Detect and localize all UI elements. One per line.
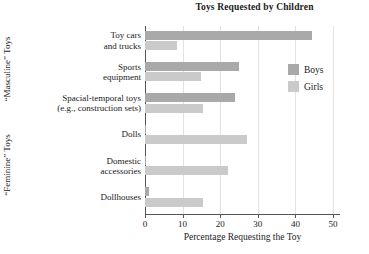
bar-girls	[145, 41, 177, 50]
category-label-line: Dollhouses	[4, 192, 141, 203]
legend-item-boys: Boys	[288, 64, 346, 75]
bar-boys	[145, 156, 146, 165]
x-tick-label-0: 0	[130, 219, 160, 229]
bar-chart: Toys Requested by Children “Masculine” T…	[0, 0, 369, 254]
category-label-line: Dolls	[4, 129, 141, 140]
category-label: Dolls	[4, 129, 144, 140]
category-label-line: and trucks	[4, 41, 141, 52]
x-tick-10	[183, 214, 184, 218]
category-label: Sportsequipment	[4, 62, 144, 83]
category-label: Domesticaccessories	[4, 156, 144, 177]
bar-girls	[145, 72, 201, 81]
legend-item-girls: Girls	[288, 81, 346, 92]
bar-boys	[145, 31, 312, 40]
legend-swatch-boys	[288, 64, 299, 75]
category-label-line: Spacial-temporal toys	[4, 93, 141, 104]
plot-area	[145, 26, 333, 214]
legend-label-girls: Girls	[304, 82, 323, 92]
chart-legend: BoysGirls	[288, 64, 346, 98]
x-axis-title: Percentage Requesting the Toy	[145, 232, 340, 242]
category-label-line: Domestic	[4, 156, 141, 167]
legend-label-boys: Boys	[304, 65, 324, 75]
legend-swatch-girls	[288, 81, 299, 92]
x-tick-label-20: 20	[205, 219, 235, 229]
category-label-line: Sports	[4, 62, 141, 73]
bar-boys	[145, 62, 239, 71]
x-tick-20	[220, 214, 221, 218]
category-label: Toy carsand trucks	[4, 30, 144, 51]
x-tick-label-50: 50	[318, 219, 348, 229]
x-tick-label-30: 30	[243, 219, 273, 229]
category-label: Dollhouses	[4, 192, 144, 203]
x-tick-0	[145, 214, 146, 218]
x-tick-30	[258, 214, 259, 218]
category-label-line: accessories	[4, 166, 141, 177]
bar-girls	[145, 166, 228, 175]
category-labels: Toy carsand trucksSportsequipmentSpacial…	[0, 26, 144, 214]
bar-girls	[145, 198, 203, 207]
bar-girls	[145, 135, 247, 144]
bar-boys	[145, 187, 149, 196]
x-tick-50	[333, 214, 334, 218]
chart-title: Toys Requested by Children	[140, 2, 369, 12]
category-label-line: equipment	[4, 72, 141, 83]
category-label-line: (e.g., construction sets)	[4, 103, 141, 114]
x-tick-label-10: 10	[168, 219, 198, 229]
category-label: Spacial-temporal toys(e.g., construction…	[4, 93, 144, 114]
x-tick-label-40: 40	[280, 219, 310, 229]
x-tick-40	[295, 214, 296, 218]
category-label-line: Toy cars	[4, 30, 141, 41]
gridline-50	[333, 26, 334, 214]
bar-boys	[145, 125, 146, 134]
bar-girls	[145, 104, 203, 113]
x-axis-line	[145, 214, 340, 215]
bar-boys	[145, 93, 235, 102]
